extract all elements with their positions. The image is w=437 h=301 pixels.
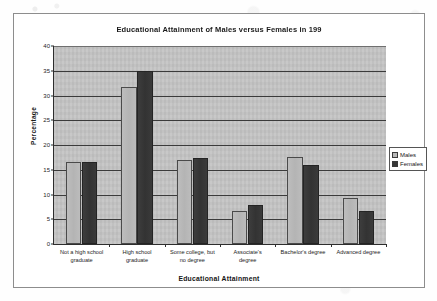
y-tick-mark [51, 219, 54, 220]
gridline [54, 145, 386, 146]
y-tick-label: 10 [43, 192, 50, 198]
y-tick-mark [51, 244, 54, 245]
x-tick-mark [165, 244, 166, 247]
x-tick-mark [275, 244, 276, 247]
gridline [54, 96, 386, 97]
y-tick-mark [51, 120, 54, 121]
y-tick-label: 5 [47, 216, 50, 222]
gridline [54, 120, 386, 121]
y-tick-mark [51, 145, 54, 146]
y-axis-title: Percentage [30, 107, 37, 145]
y-tick-mark [51, 95, 54, 96]
bar-females-6[interactable] [359, 211, 375, 244]
bar-males-6[interactable] [343, 198, 359, 244]
chart-legend: MalesFemales [389, 147, 427, 171]
bar-males-3[interactable] [177, 160, 193, 244]
bar-males-2[interactable] [121, 87, 137, 244]
bar-males-4[interactable] [232, 211, 248, 244]
gridline [54, 219, 386, 220]
legend-item-females[interactable]: Females [392, 159, 423, 168]
chart-title: Educational Attainment of Males versus F… [14, 25, 424, 34]
bar-females-3[interactable] [193, 158, 209, 244]
gridline [54, 195, 386, 196]
legend-label: Females [400, 161, 423, 167]
gridline [54, 170, 386, 171]
x-tick-mark [220, 244, 221, 247]
bar-females-2[interactable] [137, 71, 153, 244]
gridline [54, 71, 386, 72]
scanned-page: Educational Attainment of Males versus F… [0, 0, 437, 301]
legend-item-males[interactable]: Males [392, 150, 423, 159]
legend-swatch-icon [392, 161, 398, 167]
y-tick-label: 0 [47, 241, 50, 247]
bar-females-4[interactable] [248, 205, 264, 244]
plot-area: 0510152025303540 Not a high school gradu… [53, 46, 386, 245]
y-tick-label: 30 [43, 93, 50, 99]
y-tick-mark [51, 169, 54, 170]
x-tick-mark [109, 244, 110, 247]
y-tick-label: 40 [43, 43, 50, 49]
y-tick-label: 35 [43, 68, 50, 74]
y-tick-mark [51, 46, 54, 47]
category-label-6: Advanced degree [324, 249, 393, 257]
legend-swatch-icon [392, 152, 398, 158]
gridline [54, 46, 386, 47]
bar-males-1[interactable] [66, 162, 82, 244]
bar-females-5[interactable] [303, 165, 319, 244]
bar-females-1[interactable] [82, 162, 98, 244]
chart-frame: Educational Attainment of Males versus F… [13, 13, 425, 288]
y-tick-mark [51, 70, 54, 71]
y-tick-label: 15 [43, 167, 50, 173]
y-tick-mark [51, 194, 54, 195]
y-tick-label: 25 [43, 117, 50, 123]
legend-label: Males [400, 152, 416, 158]
x-tick-mark [386, 244, 387, 247]
x-axis-title: Educational Attainment [53, 275, 385, 282]
x-tick-mark [331, 244, 332, 247]
bar-males-5[interactable] [287, 157, 303, 244]
y-tick-label: 20 [43, 142, 50, 148]
